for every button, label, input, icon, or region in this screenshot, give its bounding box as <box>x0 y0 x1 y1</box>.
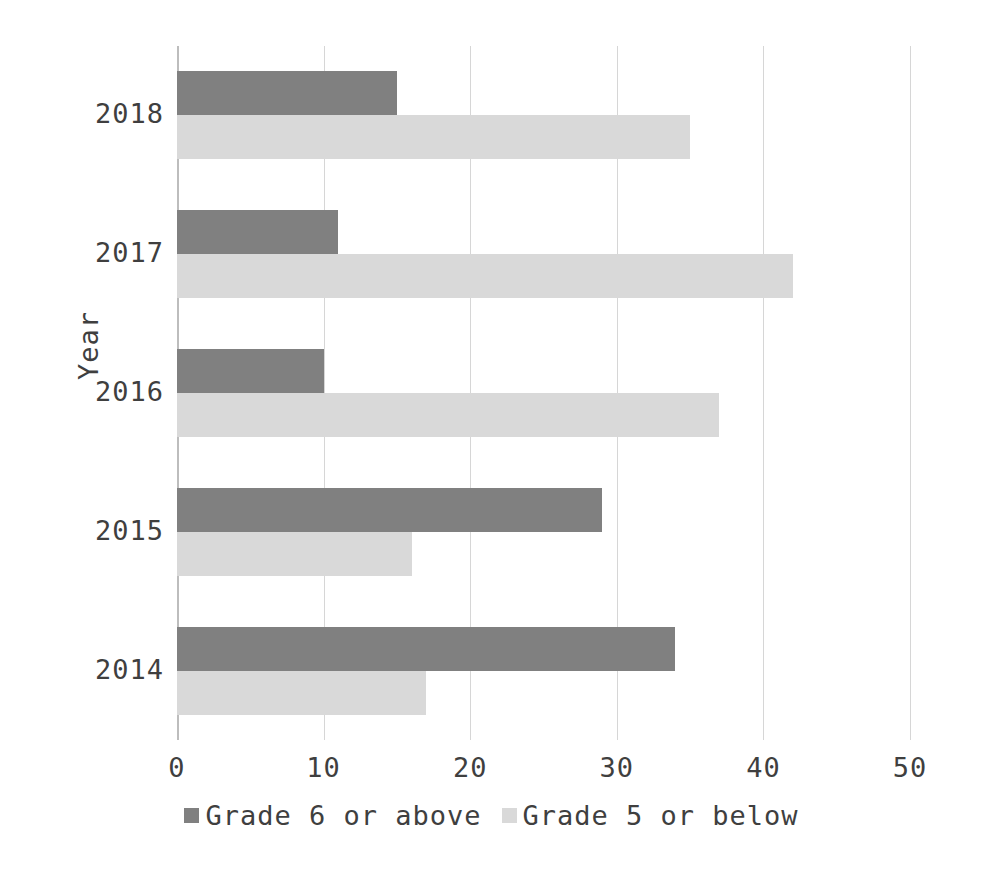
y-tick-label-2015: 2015 <box>60 515 164 546</box>
bar-group <box>177 324 910 463</box>
y-tick-label-2016: 2016 <box>60 376 164 407</box>
bar-2018-series-2 <box>177 115 690 159</box>
legend: Grade 6 or aboveGrade 5 or below <box>0 800 983 831</box>
x-tick-label-40: 40 <box>718 752 808 783</box>
y-tick-label-2017: 2017 <box>60 237 164 268</box>
bar-groups <box>177 46 910 740</box>
legend-entry-2: Grade 5 or below <box>502 800 799 831</box>
legend-label-1: Grade 6 or above <box>205 800 481 831</box>
bar-2015-series-1 <box>177 488 602 532</box>
bar-2017-series-2 <box>177 254 793 298</box>
gridline-50 <box>910 46 911 740</box>
bar-group <box>177 601 910 740</box>
legend-entry-1: Grade 6 or above <box>184 800 481 831</box>
legend-swatch-icon-1 <box>184 808 199 823</box>
bar-2014-series-1 <box>177 627 675 671</box>
x-tick-label-20: 20 <box>425 752 515 783</box>
plot-area <box>177 46 910 740</box>
legend-swatch-icon-2 <box>502 808 517 823</box>
bar-2015-series-2 <box>177 532 412 576</box>
y-axis-tick-labels: 20182017201620152014 <box>60 46 164 740</box>
x-tick-label-30: 30 <box>572 752 662 783</box>
x-tick-label-50: 50 <box>865 752 955 783</box>
x-tick-label-0: 0 <box>132 752 222 783</box>
bar-2014-series-2 <box>177 671 426 715</box>
legend-label-2: Grade 5 or below <box>523 800 799 831</box>
bar-group <box>177 185 910 324</box>
bar-2017-series-1 <box>177 210 338 254</box>
bar-2016-series-1 <box>177 349 324 393</box>
bar-chart: Year 20182017201620152014 01020304050 Gr… <box>0 0 983 887</box>
bar-2016-series-2 <box>177 393 719 437</box>
x-tick-label-10: 10 <box>279 752 369 783</box>
x-axis-tick-labels: 01020304050 <box>177 752 910 792</box>
bar-2018-series-1 <box>177 71 397 115</box>
bar-group <box>177 46 910 185</box>
y-tick-label-2018: 2018 <box>60 98 164 129</box>
y-tick-label-2014: 2014 <box>60 654 164 685</box>
bar-group <box>177 462 910 601</box>
